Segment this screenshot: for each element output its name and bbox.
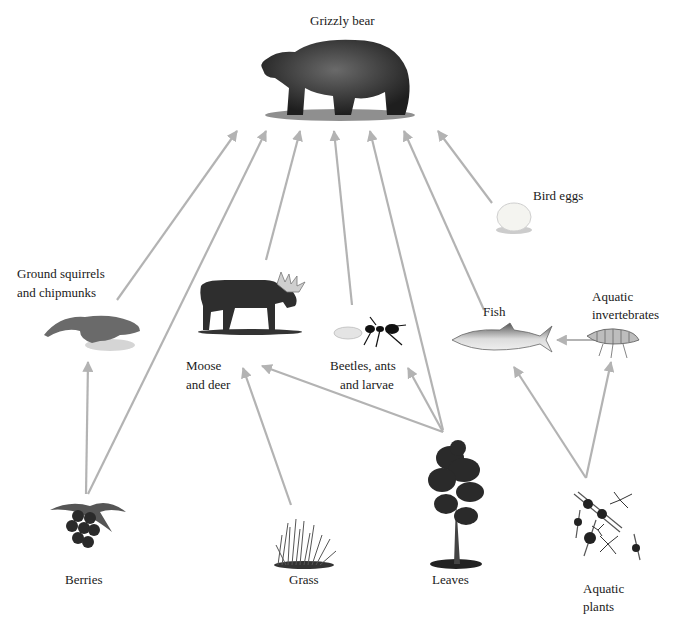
arrow-leaves-to-beetles [408,368,443,432]
arrow-berries-to-squirrels [86,362,88,494]
tree-leaves-icon [420,440,490,570]
arrow-plants-to-invertebrates [586,362,611,478]
label-ground-squirrels-line1: Ground squirrels [17,265,105,283]
arrow-beetles-to-bear [334,131,352,305]
food-web-diagram: Grizzly bear Bird eggs Ground squirrels … [0,0,680,623]
arrow-eggs-to-bear [438,131,492,203]
arrow-plants-to-fish [514,367,586,478]
fish-icon [450,318,555,358]
label-berries: Berries [65,571,103,589]
berries-icon [50,498,130,550]
label-bird-eggs: Bird eggs [533,187,583,205]
label-moose-line1: Moose [186,357,221,375]
ant-larva-icon [330,315,410,350]
label-grass: Grass [289,571,319,589]
label-beetles-line2: and larvae [340,376,394,394]
bird-egg-icon [493,200,535,236]
label-moose-line2: and deer [186,376,230,394]
grass-icon [272,515,342,570]
label-beetles-line1: Beetles, ants [330,357,396,375]
label-aquatic-plants-line1: Aquatic [583,580,624,598]
label-aquatic-plants-line2: plants [583,598,614,616]
grizzly-bear-icon [255,30,415,125]
arrow-moose-to-bear [266,131,300,260]
ground-squirrel-icon [40,305,145,355]
moose-icon [195,272,310,337]
label-grizzly-bear: Grizzly bear [310,12,375,30]
arrow-grass-to-moose [243,368,291,505]
label-ground-squirrels-line2: and chipmunks [17,284,96,302]
arrow-fish-to-bear [404,131,484,310]
aquatic-invertebrate-icon [583,322,645,362]
aquatic-plants-icon [570,490,642,562]
label-leaves: Leaves [432,571,469,589]
label-invertebrates-line1: Aquatic [592,288,633,306]
